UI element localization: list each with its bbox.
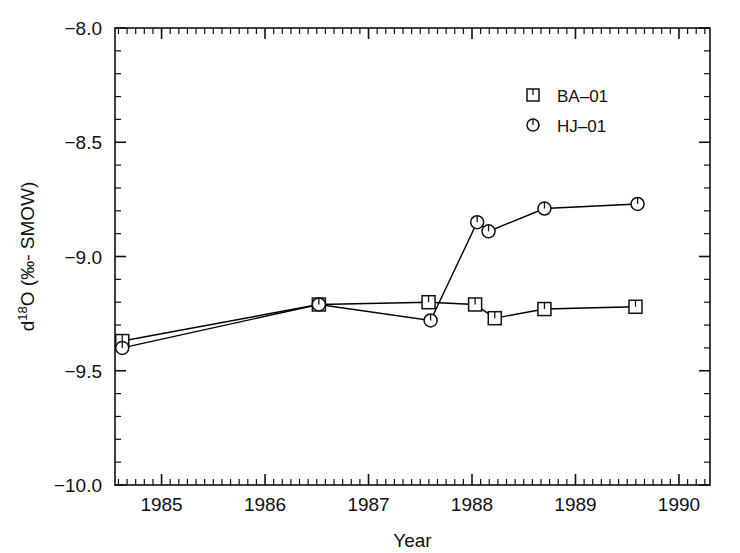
x-tick-label: 1988 [451,494,493,515]
x-tick-label: 1986 [244,494,286,515]
y-axis-title: d18O (‰- SMOW) [15,182,39,332]
plot-frame [115,28,710,485]
chart-canvas: 198519861987198819891990Year−8.0−8.5−9.0… [0,0,740,553]
x-tick-label: 1987 [347,494,389,515]
x-tick-label: 1985 [140,494,182,515]
legend-label-ba-01: BA–01 [557,87,608,106]
chart-figure: 198519861987198819891990Year−8.0−8.5−9.0… [0,0,740,553]
x-axis-title: Year [393,530,432,551]
y-title-post: O (‰- SMOW) [17,182,38,307]
y-title-superscript: 18 [15,306,30,320]
y-tick-label: −10.0 [54,475,102,496]
y-axis: −8.0−8.5−9.0−9.5−10.0 [54,18,710,496]
oxygen-isotope-line-chart: 198519861987198819891990Year−8.0−8.5−9.0… [0,0,740,553]
series-ba-01 [116,296,642,348]
x-tick-label: 1990 [658,494,700,515]
x-axis: 198519861987198819891990Year [118,28,704,551]
y-axis-title-text: d18O (‰- SMOW) [15,182,39,332]
y-tick-label: −8.5 [64,132,102,153]
legend-label-hj-01: HJ–01 [557,117,606,136]
y-tick-label: −8.0 [64,18,102,39]
legend: BA–01HJ–01 [527,87,608,136]
y-tick-label: −9.5 [64,361,102,382]
y-title-pre: d [17,321,38,332]
series-line [122,302,635,341]
x-tick-label: 1989 [554,494,596,515]
y-tick-label: −9.0 [64,247,102,268]
series-hj-01 [116,197,644,354]
